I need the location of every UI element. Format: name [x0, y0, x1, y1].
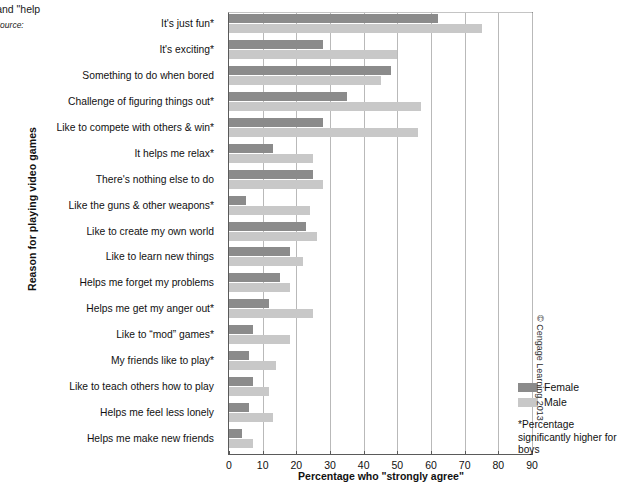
bar-male — [229, 387, 269, 396]
x-tick-mark — [330, 451, 331, 455]
bar-chart: Reason for playing video games It's just… — [0, 0, 629, 485]
category-label: Like to compete with others & win* — [0, 122, 214, 134]
bar-row — [229, 169, 532, 195]
bar-row — [229, 221, 532, 247]
category-label: Challenge of figuring things out* — [0, 96, 214, 108]
bar-female — [229, 299, 269, 308]
bar-row — [229, 195, 532, 221]
bar-male — [229, 154, 313, 163]
legend-label: Male — [544, 396, 567, 408]
category-label: Like to create my own world — [0, 226, 214, 238]
bar-male — [229, 283, 290, 292]
category-label: Like to “mod” games* — [0, 329, 214, 341]
bar-row — [229, 143, 532, 169]
bar-male — [229, 335, 290, 344]
category-label: Helps me make new friends — [0, 433, 214, 445]
bar-male — [229, 232, 317, 241]
bar-male — [229, 24, 482, 33]
category-label: Like to learn new things — [0, 251, 214, 263]
bar-female — [229, 170, 313, 179]
bar-male — [229, 180, 323, 189]
bar-male — [229, 102, 421, 111]
bar-row — [229, 298, 532, 324]
x-tick-mark — [229, 451, 230, 455]
category-label-list: It's just fun*It's exciting*Something to… — [0, 12, 222, 455]
x-tick-mark — [263, 451, 264, 455]
x-tick-mark — [431, 451, 432, 455]
x-tick-mark — [397, 451, 398, 455]
bar-row — [229, 65, 532, 91]
category-label: Helps me forget my problems — [0, 277, 214, 289]
bar-female — [229, 247, 290, 256]
category-label: There's nothing else to do — [0, 174, 214, 186]
bar-female — [229, 222, 306, 231]
bar-male — [229, 309, 313, 318]
bar-row — [229, 272, 532, 298]
x-tick-mark — [296, 451, 297, 455]
bar-female — [229, 429, 242, 438]
bar-male — [229, 413, 273, 422]
legend-item[interactable]: Female — [518, 381, 610, 393]
bar-row — [229, 117, 532, 143]
bar-female — [229, 14, 438, 23]
x-axis-title: Percentage who "strongly agree" — [228, 470, 534, 482]
bar-row — [229, 39, 532, 65]
bar-row — [229, 376, 532, 402]
x-axis-ticks: 0102030405060708090 — [228, 455, 534, 471]
legend-label: Female — [544, 381, 579, 393]
bar-female — [229, 273, 280, 282]
bar-male — [229, 76, 381, 85]
bar-male — [229, 439, 253, 448]
category-label: It's just fun* — [0, 18, 214, 30]
x-tick-mark — [364, 451, 365, 455]
bar-female — [229, 144, 273, 153]
bar-female — [229, 66, 391, 75]
bar-row — [229, 350, 532, 376]
bar-female — [229, 377, 253, 386]
bar-row — [229, 324, 532, 350]
x-tick-mark — [465, 451, 466, 455]
bar-female — [229, 40, 323, 49]
copyright-notice: © Cengage Learning 2013 — [535, 315, 545, 485]
bar-row — [229, 13, 532, 39]
bar-female — [229, 403, 249, 412]
bar-female — [229, 92, 347, 101]
bar-female — [229, 118, 323, 127]
bar-row — [229, 91, 532, 117]
x-tick-mark — [498, 451, 499, 455]
legend-item[interactable]: Male — [518, 396, 610, 408]
bar-male — [229, 206, 310, 215]
bar-rows — [229, 13, 532, 454]
bar-male — [229, 361, 276, 370]
category-label: Like to teach others how to play — [0, 381, 214, 393]
bar-female — [229, 325, 253, 334]
category-label: It helps me relax* — [0, 148, 214, 160]
legend: FemaleMale — [518, 381, 610, 411]
bar-male — [229, 257, 303, 266]
category-label: Helps me feel less lonely — [0, 407, 214, 419]
category-label: Helps me get my anger out* — [0, 303, 214, 315]
footnote: *Percentage significantly higher for boy… — [518, 419, 618, 457]
bar-row — [229, 246, 532, 272]
category-label: It's exciting* — [0, 44, 214, 56]
bar-female — [229, 196, 246, 205]
bar-male — [229, 50, 397, 59]
bar-row — [229, 428, 532, 454]
bar-male — [229, 128, 418, 137]
category-label: Something to do when bored — [0, 70, 214, 82]
category-label: My friends like to play* — [0, 355, 214, 367]
category-label: Like the guns & other weapons* — [0, 200, 214, 212]
bar-female — [229, 351, 249, 360]
bar-row — [229, 402, 532, 428]
plot-area — [228, 12, 533, 455]
